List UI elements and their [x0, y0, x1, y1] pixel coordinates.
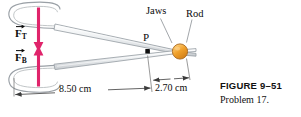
- force-label-bottom: F B: [15, 52, 27, 63]
- vector-arrow-icon: [16, 24, 25, 29]
- force-arrow-top: [34, 8, 44, 53]
- force-label-top: F T: [15, 28, 27, 39]
- figure-caption: FIGURE 9–51 Problem 17.: [220, 80, 300, 106]
- leader-line-jaws: [161, 19, 173, 44]
- handle-loop-bottom-inner: [14, 68, 58, 88]
- force-label-top-symbol: F: [15, 27, 22, 39]
- force-label-top-subscript: T: [22, 32, 27, 41]
- rod-circle: [172, 44, 187, 59]
- blade-top-highlight: [57, 26, 184, 53]
- dimension-2-70cm: [153, 59, 190, 81]
- force-label-bottom-subscript: B: [22, 56, 27, 65]
- vector-arrow-icon: [16, 48, 25, 53]
- figure-scissors-rod: F T F B P Jaws Rod 8.50 cm 2.70 cm FIGUR…: [0, 0, 301, 117]
- dimension-label-2-70cm: 2.70 cm: [155, 83, 187, 93]
- blade-bottom-highlight: [57, 51, 184, 66]
- jaws-label: Jaws: [146, 6, 166, 17]
- pivot-point-marker: [145, 49, 150, 54]
- rod-highlight: [175, 47, 180, 51]
- leader-line-rod: [187, 20, 193, 43]
- dimension-label-8-50cm: 8.50 cm: [59, 84, 91, 94]
- pivot-label: P: [143, 32, 149, 43]
- rod-label: Rod: [186, 9, 204, 20]
- figure-caption-subtitle: Problem 17.: [220, 93, 300, 106]
- force-label-bottom-symbol: F: [15, 51, 22, 63]
- figure-caption-title: FIGURE 9–51: [220, 80, 300, 92]
